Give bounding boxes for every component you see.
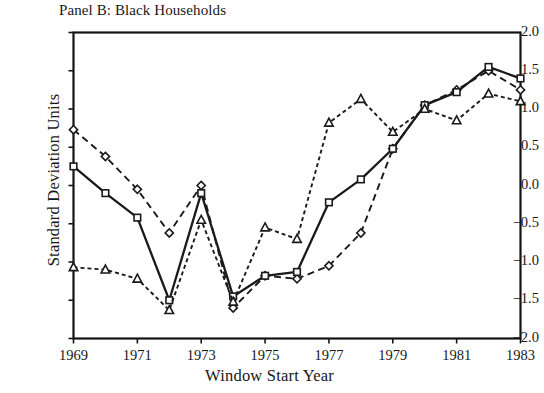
data-point-square (262, 272, 269, 279)
data-point-triangle (293, 234, 301, 242)
data-point-triangle (261, 223, 269, 231)
data-point-square (326, 199, 333, 206)
data-point-square (358, 176, 365, 183)
data-point-triangle (516, 97, 524, 105)
data-point-triangle (197, 215, 205, 223)
data-point-triangle (357, 94, 365, 102)
data-point-square (517, 75, 524, 82)
series-square-series (70, 64, 524, 304)
data-point-diamond (516, 86, 524, 94)
x-axis-label: Window Start Year (0, 366, 539, 386)
data-point-triangle (133, 274, 141, 282)
data-point-square (294, 269, 301, 276)
data-point-triangle (101, 265, 109, 273)
data-point-square (134, 214, 141, 221)
data-point-diamond (197, 181, 205, 189)
data-point-square (485, 64, 492, 71)
data-point-square (198, 190, 205, 197)
data-point-triangle (484, 89, 492, 97)
data-point-square (166, 297, 173, 304)
data-point-diamond (165, 229, 173, 237)
data-point-triangle (325, 118, 333, 126)
y-axis-label: Standard Deviation Units (44, 30, 64, 330)
data-point-triangle (452, 116, 460, 124)
series-line (74, 67, 521, 300)
panel-title: Panel B: Black Households (59, 2, 226, 19)
data-point-square (70, 163, 77, 170)
data-point-square (453, 89, 460, 96)
data-point-square (102, 190, 109, 197)
data-point-diamond (357, 229, 365, 237)
axes-frame (74, 33, 521, 339)
data-point-square (389, 145, 396, 152)
data-point-triangle (69, 263, 77, 271)
